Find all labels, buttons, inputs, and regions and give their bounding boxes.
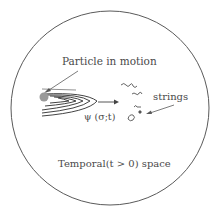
strings-label: strings xyxy=(153,91,188,102)
strings-squiggles xyxy=(121,84,142,121)
temporal-space-label: Temporal(t > 0) space xyxy=(58,158,171,169)
wavefunction-arrow xyxy=(98,100,119,105)
wavefunction-label: ψ (σ;t) xyxy=(84,111,115,122)
particle xyxy=(40,93,49,102)
particle-label: Particle in motion xyxy=(62,55,157,67)
diagram-canvas: Particle in motion ψ (σ;t) strings Tempo xyxy=(0,0,219,214)
temporal-space-boundary xyxy=(11,11,209,205)
strings-pointer-arrow xyxy=(146,105,174,114)
